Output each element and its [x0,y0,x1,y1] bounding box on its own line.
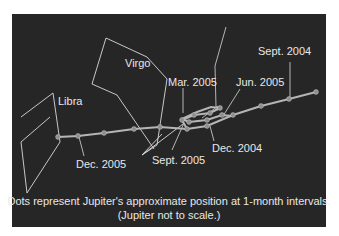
libra-label: Libra [58,95,83,107]
caption-line-2: (Jupiter not to scale.) [118,209,221,221]
caption-line-1: Dots represent Jupiter's approximate pos… [7,195,330,207]
virgo-constellation [92,38,183,155]
date-label-mar-2005: Mar. 2005 [168,76,217,88]
date-label-sept-2004: Sept. 2004 [258,45,311,57]
date-label-sept-2005: Sept. 2005 [152,154,205,166]
date-label-dec-2005: Dec. 2005 [76,158,126,170]
monthly-position-dots [56,90,319,140]
date-label-dec-2004: Dec. 2004 [212,142,262,154]
date-label-jun-2005: Jun. 2005 [236,76,284,88]
virgo-label: Virgo [125,57,150,69]
libra-constellation [21,93,60,193]
jupiter-path-diagram: Libra Virgo Sept. 2004 Dec. 2004 Mar. 20… [0,0,339,236]
